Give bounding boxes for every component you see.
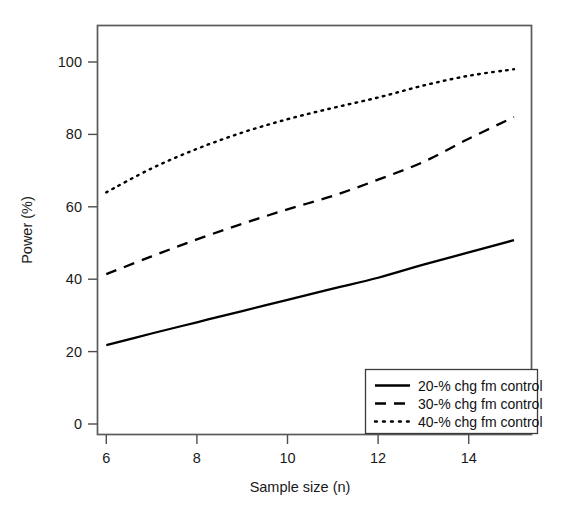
series-line-30pct — [106, 117, 514, 274]
y-tick-group: 0 — [74, 416, 97, 432]
x-axis-title: Sample size (n) — [250, 479, 351, 495]
y-axis: 0 20 40 60 80 100 Power (%) — [19, 54, 97, 432]
y-tick-group: 20 — [66, 344, 97, 360]
chart-canvas: 0 20 40 60 80 100 Power (%) — [0, 0, 564, 509]
x-tick-group: 12 — [370, 435, 386, 466]
x-tick-group: 6 — [102, 435, 110, 466]
y-tick-label: 60 — [66, 199, 82, 215]
x-tick-group: 14 — [461, 435, 477, 466]
x-tick-label: 12 — [370, 450, 386, 466]
x-tick-group: 8 — [193, 435, 201, 466]
y-tick-group: 40 — [66, 271, 97, 287]
y-tick-label: 100 — [58, 54, 82, 70]
x-tick-label: 8 — [193, 450, 201, 466]
legend-label: 20-% chg fm control — [418, 378, 543, 394]
legend-label: 40-% chg fm control — [418, 414, 543, 430]
y-tick-group: 80 — [66, 126, 97, 142]
y-axis-title: Power (%) — [19, 196, 35, 264]
series-line-40pct — [106, 69, 514, 192]
y-tick-group: 100 — [58, 54, 97, 70]
x-tick-label: 6 — [102, 450, 110, 466]
legend: 20-% chg fm control 30-% chg fm control … — [366, 370, 543, 434]
series-line-20pct — [106, 240, 514, 345]
y-tick-label: 0 — [74, 416, 82, 432]
x-tick-group: 10 — [279, 435, 295, 466]
power-curve-figure: 0 20 40 60 80 100 Power (%) — [0, 0, 564, 509]
x-axis: 6 8 10 12 14 Sample size (n) — [102, 435, 477, 495]
legend-label: 30-% chg fm control — [418, 396, 543, 412]
y-tick-label: 80 — [66, 126, 82, 142]
y-tick-label: 40 — [66, 271, 82, 287]
y-tick-group: 60 — [66, 199, 97, 215]
y-tick-label: 20 — [66, 344, 82, 360]
x-tick-label: 10 — [279, 450, 295, 466]
series-group — [106, 69, 514, 345]
x-tick-label: 14 — [461, 450, 477, 466]
